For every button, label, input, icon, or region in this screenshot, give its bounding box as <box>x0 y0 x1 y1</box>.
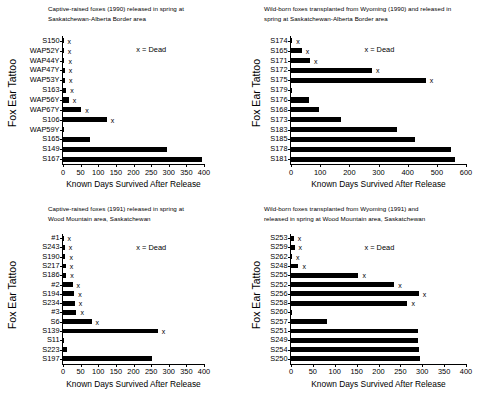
bar <box>63 117 107 122</box>
bar-row: S183 <box>291 127 466 132</box>
bar <box>63 88 66 93</box>
x-axis-label: Known Days Survived After Release <box>66 179 201 189</box>
chart-panel-bottom-left: Captive-raised foxes (1991) released in … <box>0 200 244 399</box>
bar <box>63 282 73 287</box>
bar <box>291 117 341 122</box>
bar <box>291 347 419 352</box>
legend-dead: x = Dead <box>365 243 395 252</box>
bar <box>63 338 64 343</box>
bar-category-label: S163 <box>42 86 59 93</box>
bar <box>291 264 298 269</box>
chart-title-line-1: Captive-raised foxes (1991) released in … <box>48 204 244 214</box>
x-axis-label: Known Days Survived After Release <box>311 379 446 389</box>
x-axis-tick-label: 100 <box>92 168 104 177</box>
dead-marker: x <box>69 253 73 260</box>
bar-category-label: S165 <box>270 47 287 54</box>
dead-marker: x <box>68 57 72 64</box>
y-axis-label: Fox Ear Tattoo <box>250 240 264 350</box>
bar-category-label: WAP47Y <box>30 67 60 74</box>
bar-category-label: S234 <box>42 299 59 306</box>
bar-category-label: #1 <box>51 234 59 241</box>
bar-category-label: S217 <box>42 262 59 269</box>
dead-marker: x <box>398 281 402 288</box>
bar-category-label: WAP52Y <box>30 47 60 54</box>
dead-marker: x <box>362 272 366 279</box>
plot-area: #1xS243xS190xS217xS186x#2xS194xS234x#3xS… <box>62 234 204 365</box>
bar-category-label: S190 <box>42 253 59 260</box>
bar-row: S176 <box>291 97 466 102</box>
chart-title-line-1: Wild-born foxes transplanted from Wyomin… <box>264 4 486 14</box>
bar <box>63 329 158 334</box>
bar <box>63 58 64 63</box>
x-axis-tick-label: 50 <box>309 367 317 376</box>
dead-marker: x <box>80 309 84 316</box>
plot-area: S174xS165xS171xS172xS175xS179S176S168S17… <box>290 36 466 165</box>
x-axis-tick-label: 400 <box>198 367 210 376</box>
x-axis-tick-label: 300 <box>163 367 175 376</box>
bar-row: #3x <box>63 310 204 315</box>
bar-row: S243x <box>63 245 204 250</box>
x-axis-tick-label: 150 <box>350 367 362 376</box>
bar-category-label: S250 <box>270 355 287 362</box>
bar-category-label: S183 <box>270 126 287 133</box>
bar <box>63 68 65 73</box>
bar-row: S197 <box>63 356 204 361</box>
x-axis-tick-label: 200 <box>127 168 139 177</box>
x-axis-tick-label: 300 <box>163 168 175 177</box>
dead-marker: x <box>69 67 73 74</box>
bar-category-label: WAP53Y <box>30 77 60 84</box>
bar-category-label: S173 <box>270 116 287 123</box>
chart-panel-bottom-right: Wild-born foxes transplanted from Wyomin… <box>244 200 488 399</box>
dead-marker: x <box>306 47 310 54</box>
bar <box>291 236 294 241</box>
bar-category-label: S185 <box>270 136 287 143</box>
dead-marker: x <box>70 87 74 94</box>
bar <box>291 356 420 361</box>
x-axis-tick-label: 150 <box>110 367 122 376</box>
x-axis-tick-label: 200 <box>343 168 355 177</box>
bar-row: S173 <box>291 117 466 122</box>
bar-row: S6x <box>63 319 204 324</box>
bar-row: S223 <box>63 347 204 352</box>
bar-category-label: S223 <box>42 346 59 353</box>
bar <box>291 147 451 152</box>
x-axis-tick-label: 400 <box>198 168 210 177</box>
bar-category-label: WAP67Y <box>30 106 60 113</box>
bar-row: WAP53Yx <box>63 78 204 83</box>
chart-title-line-2: spring at Saskatchewan-Alberta Border ar… <box>264 14 486 24</box>
bar-category-label: S249 <box>270 337 287 344</box>
bar <box>63 157 202 162</box>
bar-category-label: S256 <box>270 290 287 297</box>
bar-category-label: S175 <box>270 77 287 84</box>
bar-row: WAP59Y <box>63 127 204 132</box>
dead-marker: x <box>296 37 300 44</box>
dead-marker: x <box>78 290 82 297</box>
legend-dead: x = Dead <box>136 45 166 54</box>
bar-category-label: WAP56Y <box>30 96 60 103</box>
bar-row: #2x <box>63 282 204 287</box>
figure-sheet: Captive-raised foxes (1990) released in … <box>0 0 488 399</box>
dead-marker: x <box>79 300 83 307</box>
bar-category-label: WAP59Y <box>30 126 60 133</box>
bar-category-label: S174 <box>270 37 287 44</box>
bar <box>291 38 292 43</box>
bar-category-label: S179 <box>270 86 287 93</box>
bar-row: S194x <box>63 291 204 296</box>
bar-category-label: S258 <box>270 299 287 306</box>
bar-row: S165 <box>63 137 204 142</box>
bar-category-label: S248 <box>270 262 287 269</box>
bar-row: S250 <box>291 356 466 361</box>
bar-row: S172x <box>291 68 466 73</box>
x-axis-tick-label: 50 <box>77 168 85 177</box>
bar-category-label: S252 <box>270 281 287 288</box>
bar-category-label: S106 <box>42 116 59 123</box>
bar-category-label: WAP44Y <box>30 57 60 64</box>
bar-row: S249 <box>291 338 466 343</box>
bar-category-label: S243 <box>42 244 59 251</box>
bar-row: S256x <box>291 291 466 296</box>
bar-row: WAP44Yx <box>63 58 204 63</box>
bar-row: S253x <box>291 236 466 241</box>
bar-row: S251 <box>291 329 466 334</box>
x-axis-tick-label: 150 <box>110 168 122 177</box>
bar <box>63 319 92 324</box>
